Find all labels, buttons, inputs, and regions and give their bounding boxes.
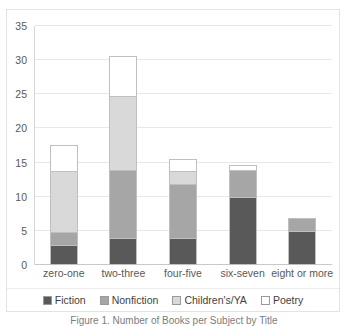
bar-group[interactable] <box>288 26 316 265</box>
y-tick-label-25: 25 <box>15 89 27 100</box>
y-tick-label-35: 35 <box>15 21 27 32</box>
bars-layer <box>34 26 332 265</box>
bar-segment[interactable] <box>169 171 197 185</box>
legend-item[interactable]: Children's/YA <box>172 295 247 306</box>
bar-segment[interactable] <box>169 159 197 173</box>
bar-segment[interactable] <box>288 231 316 265</box>
y-tick-label-5: 5 <box>21 226 27 237</box>
legend-label: Poetry <box>273 295 303 306</box>
legend-label: Fiction <box>55 295 86 306</box>
bar-segment[interactable] <box>50 245 78 265</box>
y-tick-label-10: 10 <box>15 191 27 202</box>
bar-segment[interactable] <box>50 171 78 232</box>
bar-group[interactable] <box>229 26 257 265</box>
bar-segment[interactable] <box>109 238 137 265</box>
chart-legend: FictionNonfictionChildren's/YAPoetry <box>7 288 339 311</box>
y-axis: 05101520253035 <box>0 26 32 265</box>
legend-swatch-icon <box>43 296 52 305</box>
x-tick-label: four-five <box>164 268 202 279</box>
bar-segment[interactable] <box>288 218 316 232</box>
y-tick-label-30: 30 <box>15 55 27 66</box>
x-tick-label: two-three <box>102 268 146 279</box>
bar-segment[interactable] <box>50 232 78 246</box>
x-tick-label: eight or more <box>271 268 333 279</box>
legend-item[interactable]: Poetry <box>261 295 303 306</box>
bar-stack <box>109 56 137 265</box>
bar-segment[interactable] <box>50 145 78 172</box>
bar-segment[interactable] <box>169 238 197 265</box>
legend-item[interactable]: Fiction <box>43 295 86 306</box>
bar-stack <box>229 165 257 265</box>
bar-segment[interactable] <box>229 197 257 265</box>
bar-segment[interactable] <box>229 170 257 197</box>
legend-swatch-icon <box>172 296 181 305</box>
x-tick-label: six-seven <box>220 268 264 279</box>
figure-caption: Figure 1. Number of Books per Subject by… <box>0 315 348 326</box>
y-tick-label-15: 15 <box>15 157 27 168</box>
bar-group[interactable] <box>50 26 78 265</box>
bar-group[interactable] <box>109 26 137 265</box>
bar-segment[interactable] <box>169 184 197 239</box>
bar-segment[interactable] <box>109 170 137 238</box>
bar-stack <box>169 159 197 265</box>
bar-stack <box>50 145 78 265</box>
legend-label: Nonfiction <box>112 295 159 306</box>
bar-segment[interactable] <box>109 96 137 171</box>
legend-label: Children's/YA <box>184 295 247 306</box>
bar-segment[interactable] <box>109 56 137 97</box>
bar-stack <box>288 218 316 265</box>
bar-group[interactable] <box>169 26 197 265</box>
legend-swatch-icon <box>261 296 270 305</box>
y-tick-label-0: 0 <box>21 260 27 271</box>
x-tick-label: zero-one <box>43 268 84 279</box>
legend-item[interactable]: Nonfiction <box>100 295 159 306</box>
y-tick-label-20: 20 <box>15 123 27 134</box>
legend-swatch-icon <box>100 296 109 305</box>
x-axis: zero-onetwo-threefour-fivesix-seveneight… <box>34 268 332 284</box>
